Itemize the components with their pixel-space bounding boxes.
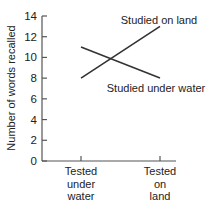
y-axis-title: Number of words recalled [5,25,17,150]
y-axis: 02468101214 [24,10,47,167]
x-category-label: Testedunderwater [65,165,97,202]
y-tick-label: 12 [24,31,37,43]
y-tick-label: 14 [24,10,37,22]
series-label-studied-on-land: Studied on land [121,14,197,26]
y-tick-label: 0 [31,155,37,167]
series-group [81,26,160,78]
y-tick-label: 6 [31,93,37,105]
line-chart: 02468101214 TestedunderwaterTestedonland… [0,0,212,211]
y-tick-label: 4 [31,114,38,126]
y-tick-label: 10 [24,51,37,63]
y-tick-label: 8 [31,72,37,84]
y-tick-label: 2 [31,134,37,146]
series-label-studied-under-water: Studied under water [107,82,206,94]
x-category-label: Testedonland [144,165,176,202]
x-axis: TestedunderwaterTestedonland [42,156,176,202]
